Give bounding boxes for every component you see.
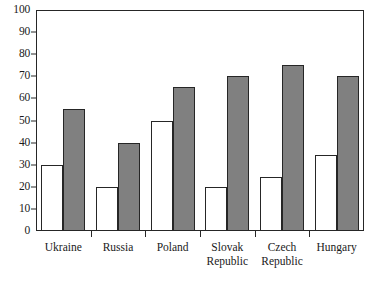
y-tick-label: 90 (19, 26, 30, 38)
x-axis-label: SlovakRepublic (207, 240, 249, 268)
x-tick-mark (145, 231, 146, 237)
x-axis-label: Ukraine (45, 240, 82, 254)
x-axis-label: Russia (103, 240, 134, 254)
bar (205, 187, 227, 231)
y-tick-label: 40 (19, 137, 30, 149)
y-tick-mark (31, 164, 36, 165)
x-axis-label: Poland (157, 240, 189, 254)
y-tick-mark (31, 186, 36, 187)
y-tick-mark (31, 98, 36, 99)
y-tick-label: 80 (19, 48, 30, 60)
y-tick-mark (31, 54, 36, 55)
bar-group (260, 10, 304, 231)
x-tick-mark (309, 231, 310, 237)
bar (96, 187, 118, 231)
bar (315, 155, 337, 231)
y-tick-label: 0 (24, 225, 30, 237)
y-tick-label: 30 (19, 159, 30, 171)
y-tick-label: 70 (19, 71, 30, 83)
bar-group (96, 10, 140, 231)
bars-layer (36, 10, 364, 231)
y-tick-mark (31, 120, 36, 121)
x-axis-label-line: Republic (261, 254, 303, 268)
x-tick-mark (91, 231, 92, 237)
bar (118, 143, 140, 231)
y-tick-label: 20 (19, 181, 30, 193)
bar-chart: 0102030405060708090100 UkraineRussiaPola… (0, 0, 372, 283)
x-axis-label: CzechRepublic (261, 240, 303, 268)
y-tick-mark (31, 32, 36, 33)
bar (63, 109, 85, 231)
x-axis-label-line: Ukraine (45, 240, 82, 254)
y-tick-label: 60 (19, 93, 30, 105)
bar-group (205, 10, 249, 231)
x-axis-label-line: Poland (157, 240, 189, 254)
bar (260, 177, 282, 231)
y-tick-mark (31, 142, 36, 143)
x-tick-mark (200, 231, 201, 237)
bar (41, 165, 63, 231)
y-tick-label: 10 (19, 203, 30, 215)
bar (227, 76, 249, 231)
x-axis-label-line: Russia (103, 240, 134, 254)
y-tick-mark (31, 76, 36, 77)
y-tick-label: 50 (19, 115, 30, 127)
x-axis-label: Hungary (317, 240, 357, 254)
x-tick-mark (255, 231, 256, 237)
bar (173, 87, 195, 231)
x-axis-label-line: Hungary (317, 240, 357, 254)
y-axis: 0102030405060708090100 (0, 10, 30, 231)
x-axis-label-line: Czech (261, 240, 303, 254)
bar-group (41, 10, 85, 231)
bar-group (151, 10, 195, 231)
y-tick-mark (31, 208, 36, 209)
y-tick-label: 100 (13, 4, 30, 16)
bar (337, 76, 359, 231)
bar-group (315, 10, 359, 231)
bar (151, 121, 173, 232)
x-axis-label-line: Slovak (207, 240, 249, 254)
bar (282, 65, 304, 231)
x-axis-label-line: Republic (207, 254, 249, 268)
x-axis-labels: UkraineRussiaPolandSlovakRepublicCzechRe… (36, 240, 364, 282)
